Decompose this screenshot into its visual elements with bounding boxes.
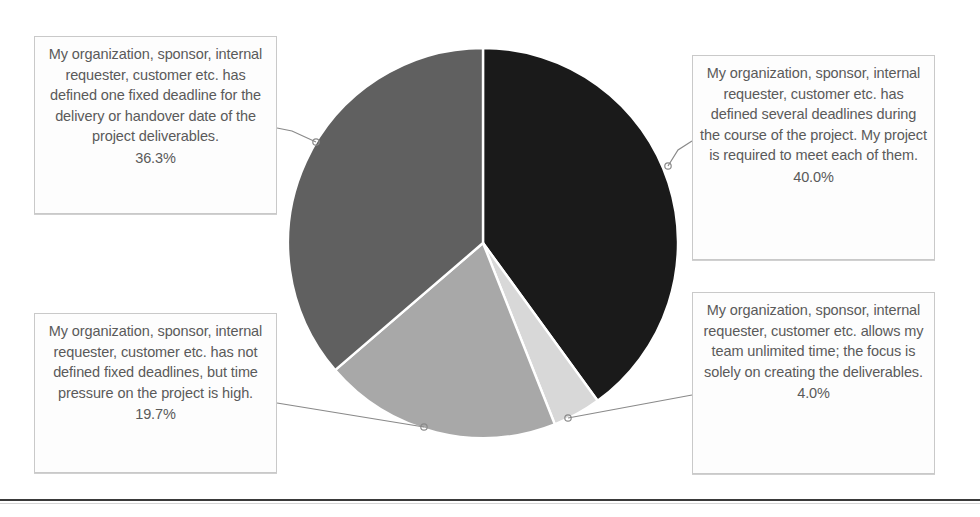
callout-several-deadlines: My organization, sponsor, internal reque… (692, 55, 935, 260)
callout-no-fixed-deadlines: My organization, sponsor, internal reque… (34, 313, 277, 473)
pie-slices-group (288, 48, 678, 438)
bottom-horizontal-rule (0, 499, 980, 501)
callout-no-fixed-deadlines-percent: 19.7% (41, 404, 270, 425)
pie-chart-figure: My organization, sponsor, internal reque… (0, 0, 980, 517)
callout-no-fixed-deadlines-text: My organization, sponsor, internal reque… (49, 323, 262, 401)
callout-fixed-deadline: My organization, sponsor, internal reque… (34, 36, 277, 214)
callout-fixed-deadline-percent: 36.3% (41, 148, 270, 169)
callout-unlimited-time-percent: 4.0% (699, 383, 928, 404)
callout-several-deadlines-percent: 40.0% (699, 167, 928, 188)
leader-line-fixed-deadline (277, 128, 316, 142)
leader-line-several-deadlines (668, 141, 692, 166)
bottom-horizontal-rule-shadow (0, 503, 980, 504)
callout-unlimited-time-text: My organization, sponsor, internal reque… (704, 302, 924, 380)
callout-unlimited-time: My organization, sponsor, internal reque… (692, 292, 935, 474)
callout-several-deadlines-text: My organization, sponsor, internal reque… (700, 65, 927, 163)
callout-fixed-deadline-text: My organization, sponsor, internal reque… (49, 46, 262, 144)
